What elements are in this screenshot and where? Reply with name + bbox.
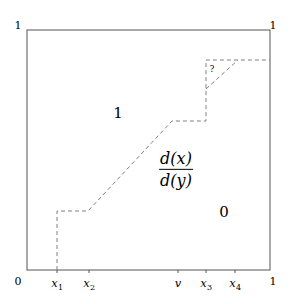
fraction-bar xyxy=(159,169,193,170)
x-tick-sub-x1: 1 xyxy=(58,283,63,292)
unit-square-frame xyxy=(27,30,270,270)
region-label-upper-left: 1 xyxy=(113,106,123,121)
axis-label-bottom-right: 1 xyxy=(270,276,277,287)
x-tick-label-x3: x3 xyxy=(200,278,212,290)
axis-label-top-right: 1 xyxy=(270,20,277,31)
x-tick-sub-x4: 4 xyxy=(236,283,241,292)
x-tick-base-x2: x xyxy=(83,276,90,290)
x-tick-label-x2: x2 xyxy=(83,278,95,290)
x-tick-sub-x3: 3 xyxy=(207,283,212,292)
fraction-numerator: d(x) xyxy=(159,150,193,169)
x-tick-label-x1: x1 xyxy=(51,278,63,290)
unit-square-plot xyxy=(0,0,290,304)
axis-label-top-left: 1 xyxy=(15,20,22,31)
x-tick-sub-x2: 2 xyxy=(90,283,95,292)
x-tick-label-x4: x4 xyxy=(229,278,241,290)
figure-container: 1 1 0 1 x1 x2 v x3 x4 1 0 ? d(x) d(y) xyxy=(0,0,290,304)
axis-label-bottom-left: 0 xyxy=(15,276,22,287)
x-tick-base-v: v xyxy=(175,276,182,290)
x-tick-label-v: v xyxy=(175,278,182,290)
region-label-lower-right: 0 xyxy=(219,205,229,220)
fraction-label-dx-dy: d(x) d(y) xyxy=(159,150,193,190)
x-tick-base-x4: x xyxy=(229,276,236,290)
region-label-question: ? xyxy=(210,65,215,74)
x-tick-base-x3: x xyxy=(200,276,207,290)
x-tick-base-x1: x xyxy=(51,276,58,290)
fraction-denominator: d(y) xyxy=(159,171,193,190)
